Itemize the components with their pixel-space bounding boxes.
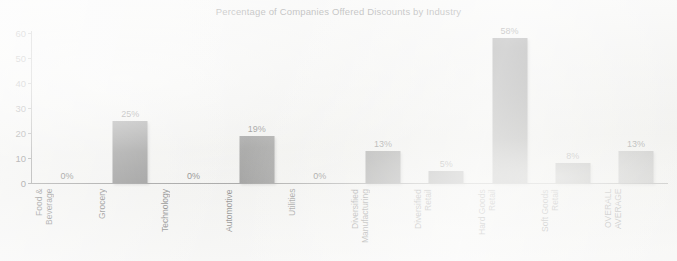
y-axis-tick-label: 20 (15, 128, 26, 139)
y-axis-tick-mark (28, 83, 31, 84)
x-axis-category-label-text: OVERALL AVERAGE (604, 189, 623, 259)
bar-value-label: 0% (187, 171, 200, 181)
x-axis-category-label: Hard Goods Retail (478, 189, 542, 259)
bar-slot[interactable]: 13% (604, 33, 668, 183)
bar-value-label: 13% (627, 139, 645, 149)
y-axis-tick-label: 30 (15, 103, 26, 114)
x-axis-category-label: OVERALL AVERAGE (604, 189, 668, 259)
x-axis-category-label-text: Soft Goods Retail (541, 189, 560, 259)
bar-slot[interactable]: 25% (98, 33, 162, 183)
bar-value-label: 25% (121, 109, 139, 119)
bar[interactable] (429, 171, 464, 184)
y-axis-tick-mark (28, 133, 31, 134)
x-axis-category-label: Grocery (98, 189, 162, 259)
bar-value-label: 13% (374, 139, 392, 149)
bar[interactable] (492, 38, 527, 183)
bar-chart: Percentage of Companies Offered Discount… (0, 0, 677, 261)
bar[interactable] (366, 151, 401, 184)
x-axis-category-label-text: Automotive (225, 189, 235, 259)
bar-value-label: 8% (566, 151, 579, 161)
y-axis-tick-mark (28, 108, 31, 109)
x-axis-category-label-text: Technology (161, 189, 171, 259)
y-axis-tick-label: 50 (15, 53, 26, 64)
bar[interactable] (113, 121, 148, 184)
bar-value-label: 0% (60, 171, 73, 181)
x-axis-category-label-text: Food & Beverage (35, 189, 54, 259)
x-axis-category-label: Technology (161, 189, 225, 259)
x-axis-category-label-text: Diversified Manufacturing (351, 189, 370, 259)
x-axis-category-label: Food & Beverage (35, 189, 99, 259)
x-axis-line (31, 183, 668, 184)
bar-slot[interactable]: 0% (288, 33, 352, 183)
bar[interactable] (239, 136, 274, 184)
bar-value-label: 5% (440, 159, 453, 169)
plot-area: 0102030405060 0%25%0%19%0%13%5%58%8%13% (31, 33, 668, 183)
x-axis-category-label-text: Utilities (288, 189, 298, 259)
bar-slot[interactable]: 0% (35, 33, 99, 183)
bar-slot[interactable]: 5% (414, 33, 478, 183)
x-axis-category-label-text: Grocery (98, 189, 108, 259)
chart-title: Percentage of Companies Offered Discount… (0, 6, 677, 17)
x-axis-category-label: Automotive (225, 189, 289, 259)
y-axis-tick-mark (28, 58, 31, 59)
x-axis-category-label: Soft Goods Retail (541, 189, 605, 259)
bar-value-label: 19% (248, 124, 266, 134)
bar-slot[interactable]: 13% (351, 33, 415, 183)
x-axis-category-label: Utilities (288, 189, 352, 259)
y-axis-tick-label: 0 (21, 178, 26, 189)
bar-value-label: 0% (313, 171, 326, 181)
y-axis-tick-mark (28, 158, 31, 159)
bar-slot[interactable]: 0% (161, 33, 225, 183)
y-axis-tick-label: 40 (15, 78, 26, 89)
y-axis-tick-mark (28, 183, 31, 184)
bar-slot[interactable]: 8% (541, 33, 605, 183)
bar-slot[interactable]: 58% (478, 33, 542, 183)
bar-slot[interactable]: 19% (225, 33, 289, 183)
bar[interactable] (555, 163, 590, 183)
y-axis-tick-mark (28, 33, 31, 34)
y-axis-tick-label: 10 (15, 153, 26, 164)
y-axis-tick-label: 60 (15, 28, 26, 39)
bar-value-label: 58% (501, 26, 519, 36)
bar[interactable] (619, 151, 654, 184)
x-axis-category-label: Diversified Retail (414, 189, 478, 259)
x-axis-category-label: Diversified Manufacturing (351, 189, 415, 259)
x-axis-category-label-text: Diversified Retail (414, 189, 433, 259)
x-axis-category-label-text: Hard Goods Retail (478, 189, 497, 259)
